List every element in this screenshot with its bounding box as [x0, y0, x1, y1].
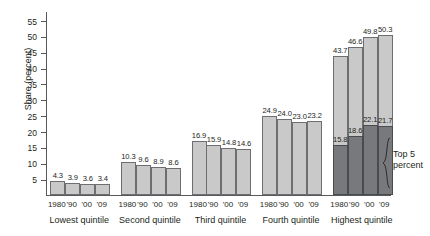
bar-group: 24.924.023.023.2 — [264, 12, 321, 195]
y-axis-tick-label: 40 — [28, 64, 37, 74]
y-axis-tick-label: 10 — [28, 159, 37, 169]
bar[interactable] — [50, 181, 65, 195]
bar[interactable] — [95, 184, 110, 195]
bar-overlay-top5[interactable] — [363, 125, 378, 195]
x-axis-tick-label: '00 — [152, 200, 162, 209]
x-axis-tick-label: '09 — [379, 200, 389, 209]
y-axis-tick-label: 30 — [28, 96, 37, 106]
bar-wrapper: 24.0 — [277, 119, 292, 195]
bar[interactable] — [136, 165, 151, 195]
annotation-text: Top 5 percent — [393, 149, 423, 171]
bar-value-label: 14.6 — [237, 139, 251, 148]
x-axis-group-label: Third quintile — [195, 215, 247, 225]
bar-value-label: 3.4 — [98, 174, 108, 183]
bar-wrapper: 14.8 — [221, 148, 236, 195]
bar-wrapper: 22.149.8 — [363, 37, 378, 195]
bar-wrapper: 16.9 — [192, 141, 207, 195]
bar-wrapper: 8.9 — [151, 167, 166, 195]
bar-value-label: 50.3 — [378, 25, 392, 34]
y-axis-tick: 40 — [0, 64, 46, 74]
y-axis-tick: 15 — [0, 143, 46, 153]
x-axis-tick-label: '90 — [278, 200, 288, 209]
x-axis-tick-label: 1980 — [48, 200, 66, 209]
bar-value-label: 24.9 — [262, 106, 276, 115]
y-axis-tick: 35 — [0, 80, 46, 90]
bar-wrapper: 4.3 — [50, 181, 65, 195]
annotation-line-2: percent — [393, 160, 423, 171]
bar-value-label: 15.9 — [207, 135, 221, 144]
bar-value-label: 9.6 — [138, 155, 148, 164]
bar-overlay-value-label: 15.8 — [333, 135, 347, 144]
bar-wrapper: 3.9 — [65, 183, 80, 195]
x-axis-tick-label: '00 — [82, 200, 92, 209]
bar-overlay-top5[interactable] — [348, 136, 363, 195]
bar-wrapper: 3.4 — [95, 184, 110, 195]
bar-value-label: 14.8 — [222, 138, 236, 147]
y-axis-tick-label: 55 — [28, 17, 37, 27]
plot-area: 4.33.93.63.410.39.68.98.616.915.914.814.… — [46, 12, 391, 196]
y-axis: 510152025303540455055 — [0, 0, 46, 236]
bar[interactable] — [192, 141, 207, 195]
bar-value-label: 3.6 — [83, 174, 93, 183]
bar[interactable] — [236, 149, 251, 195]
bar[interactable] — [292, 122, 307, 195]
x-axis-tick-label: '09 — [167, 200, 177, 209]
x-axis-group-label: Highest quintile — [331, 215, 393, 225]
x-axis-tick-label: 1980 — [189, 200, 207, 209]
y-axis-tick: 45 — [0, 48, 46, 58]
bar-overlay-value-label: 22.1 — [363, 115, 377, 124]
bar-wrapper: 15.9 — [206, 145, 221, 195]
x-axis-tick-label: 1980 — [260, 200, 278, 209]
bar[interactable] — [206, 145, 221, 195]
bar-value-label: 24.0 — [277, 109, 291, 118]
bar-value-label: 16.9 — [192, 131, 206, 140]
x-axis-group-label: Second quintile — [119, 215, 181, 225]
bar[interactable] — [65, 183, 80, 195]
annotation-line-1: Top 5 — [393, 149, 423, 160]
bar[interactable] — [277, 119, 292, 195]
bar-wrapper: 3.6 — [80, 184, 95, 195]
bar-wrapper: 23.2 — [307, 121, 322, 195]
bar-overlay-top5[interactable] — [333, 145, 348, 195]
y-axis-tick-label: 25 — [28, 112, 37, 122]
bar[interactable] — [80, 184, 95, 195]
bar-wrapper: 24.9 — [262, 116, 277, 195]
bar-value-label: 8.9 — [153, 157, 163, 166]
bar-overlay-value-label: 18.6 — [348, 126, 362, 135]
y-axis-tick-label: 20 — [28, 128, 37, 138]
y-axis-tick: 25 — [0, 112, 46, 122]
bar-value-label: 23.2 — [307, 111, 321, 120]
x-axis-tick-label: '90 — [208, 200, 218, 209]
bar[interactable] — [307, 121, 322, 195]
y-axis-tick-label: 5 — [32, 175, 37, 185]
bar-value-label: 3.9 — [68, 173, 78, 182]
y-axis-tick: 55 — [0, 17, 46, 27]
bar-value-label: 46.6 — [348, 37, 362, 46]
bar-value-label: 8.6 — [168, 158, 178, 167]
y-axis-tick-label: 50 — [28, 32, 37, 42]
bar[interactable] — [262, 116, 277, 195]
bar-value-label: 10.3 — [121, 152, 135, 161]
y-axis-tick: 30 — [0, 96, 46, 106]
bar-wrapper: 8.6 — [166, 168, 181, 195]
bar-wrapper: 10.3 — [121, 162, 136, 195]
x-axis-tick-label: '09 — [238, 200, 248, 209]
bar-wrapper: 15.843.7 — [333, 56, 348, 195]
bar[interactable] — [121, 162, 136, 195]
x-axis-tick-label: '90 — [67, 200, 77, 209]
bar[interactable] — [151, 167, 166, 195]
y-axis-tick: 20 — [0, 128, 46, 138]
bar-value-label: 43.7 — [333, 46, 347, 55]
y-axis-tick: 50 — [0, 32, 46, 42]
bar-wrapper: 9.6 — [136, 165, 151, 195]
x-axis-tick-label: '90 — [137, 200, 147, 209]
bar-value-label: 23.0 — [292, 112, 306, 121]
bar-value-label: 49.8 — [363, 27, 377, 36]
x-axis-tick-label: '90 — [349, 200, 359, 209]
y-axis-tick-label: 15 — [28, 143, 37, 153]
bar[interactable] — [221, 148, 236, 195]
x-axis-group-label: Fourth quintile — [263, 215, 320, 225]
x-axis-tick-label: '09 — [97, 200, 107, 209]
bar-group: 10.39.68.98.6 — [123, 12, 180, 195]
bar[interactable] — [166, 168, 181, 195]
